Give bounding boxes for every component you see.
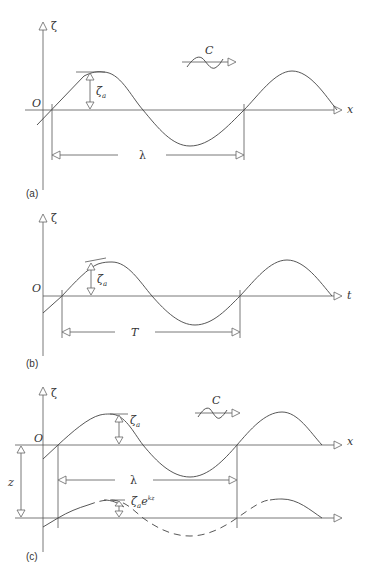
zeta-axis-arrow-icon bbox=[39, 387, 47, 395]
crest-tick bbox=[85, 258, 106, 262]
amplitude-label: ζa bbox=[96, 85, 106, 100]
panel-c: ζ x O ζa λ C z bbox=[7, 387, 354, 562]
deep-axis-arrow-icon bbox=[334, 514, 342, 522]
depth-arrow-down-icon bbox=[17, 510, 25, 517]
amplitude-arrow-down-icon bbox=[87, 288, 95, 295]
period-arrow-right-icon bbox=[232, 328, 240, 336]
amplitude-label: ζa bbox=[130, 414, 140, 429]
wavelength-label: λ bbox=[139, 149, 146, 162]
celerity-wave-icon bbox=[195, 408, 240, 418]
depth-arrow-up-icon bbox=[17, 446, 25, 453]
x-axis-label: x bbox=[347, 435, 354, 448]
zeta-axis-label: ζ bbox=[51, 387, 57, 400]
t-axis-label: t bbox=[347, 289, 352, 302]
x-axis-label: x bbox=[347, 103, 354, 116]
celerity-wave-icon bbox=[182, 57, 236, 68]
lambda-arrow-right-icon bbox=[229, 476, 237, 484]
origin-label: O bbox=[32, 282, 41, 295]
zeta-axis-label: ζ bbox=[51, 212, 57, 225]
amplitude-label: ζa bbox=[97, 273, 107, 288]
panel-b-tag: (b) bbox=[26, 358, 38, 369]
period-arrow-left-icon bbox=[62, 328, 70, 336]
depth-label: z bbox=[7, 476, 14, 489]
period-label: T bbox=[131, 326, 140, 339]
panel-a: ζ x O ζa λ C (a) bbox=[25, 20, 354, 199]
panel-b: ζ t O ζa T (b) bbox=[26, 212, 352, 369]
surface-wave-curve bbox=[37, 71, 337, 146]
deep-amplitude-arrow-up-icon bbox=[115, 501, 123, 506]
lambda-arrow-left-icon bbox=[52, 151, 60, 159]
lambda-arrow-left-icon bbox=[58, 476, 66, 484]
surface-wave-curve bbox=[43, 412, 322, 477]
amplitude-arrow-down-icon bbox=[115, 437, 123, 444]
origin-label: O bbox=[34, 432, 43, 445]
deep-amplitude-label: ζaekz bbox=[131, 494, 155, 510]
amplitude-arrow-down-icon bbox=[86, 102, 94, 109]
panel-a-tag: (a) bbox=[26, 188, 38, 199]
zeta-axis-label: ζ bbox=[51, 20, 57, 33]
x-axis-arrow-icon bbox=[334, 441, 342, 449]
wavelength-label: λ bbox=[130, 474, 137, 487]
celerity-label: C bbox=[205, 44, 214, 57]
origin-label: O bbox=[32, 97, 41, 110]
wave-diagram: ζ x O ζa λ C (a) ζ bbox=[0, 0, 375, 582]
t-axis-arrow-icon bbox=[334, 292, 342, 300]
lambda-arrow-right-icon bbox=[236, 151, 244, 159]
panel-c-tag: (c) bbox=[26, 551, 38, 562]
zeta-axis-arrow-icon bbox=[39, 22, 47, 30]
deep-amplitude-arrow-down-icon bbox=[115, 511, 123, 517]
time-series-wave-curve bbox=[43, 260, 332, 325]
deep-wave-solid-left bbox=[43, 505, 88, 527]
zeta-axis-arrow-icon bbox=[39, 214, 47, 222]
celerity-label: C bbox=[212, 394, 221, 407]
